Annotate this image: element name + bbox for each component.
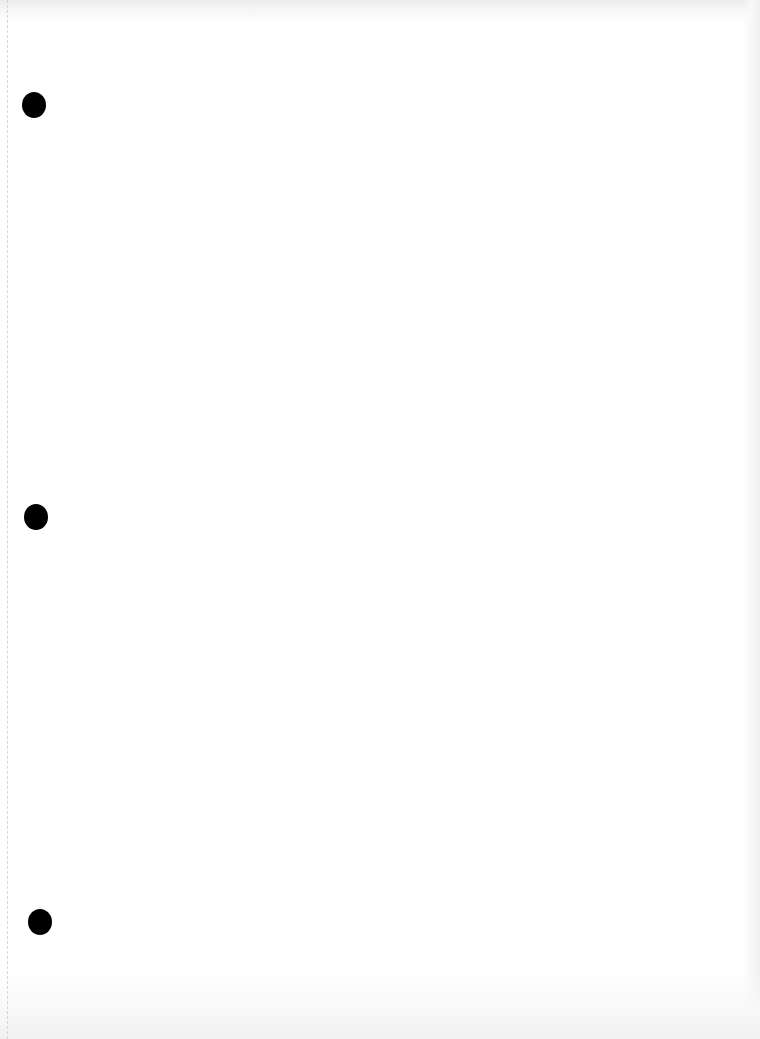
punch-hole-top [22,92,46,118]
scanned-page [0,0,760,1039]
punch-hole-bottom [28,909,52,935]
scan-edge-right-shadow [742,0,760,1039]
scan-edge-top-shadow [0,0,760,22]
punch-hole-middle [24,504,48,530]
left-margin-dashed-line [7,0,8,1039]
scan-edge-bottom-shadow [0,969,760,1039]
